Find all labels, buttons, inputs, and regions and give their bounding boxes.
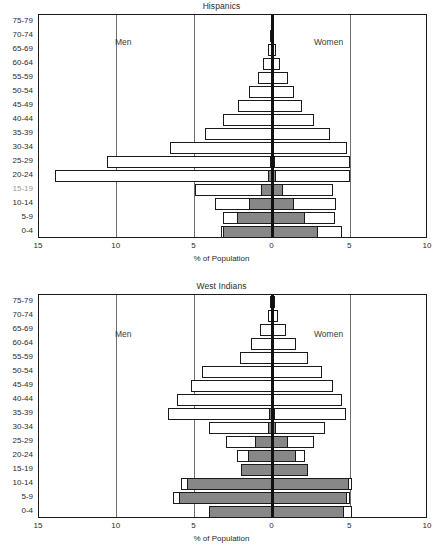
x-axis-tick-1: 10 [104, 240, 128, 252]
bar-right-60-64 [272, 338, 295, 351]
x-axis-tick-4: 5 [337, 520, 361, 532]
bar-right-30-34 [272, 142, 347, 155]
gridline-5 [350, 15, 351, 237]
y-axis-label-45-49: 45-49 [13, 380, 33, 390]
bar-left-50-54 [249, 86, 272, 99]
x-axis-title-top: % of Population [0, 252, 443, 265]
bar-left-45-49 [238, 100, 272, 113]
bar-shaded-left-0-4 [223, 226, 273, 239]
y-axis-label-5-9: 5-9 [21, 492, 33, 502]
y-axis-label-50-54: 50-54 [13, 366, 33, 376]
bar-shaded-right-20-24 [272, 450, 295, 463]
bar-shaded-left-10-14 [249, 198, 272, 211]
x-axis-tick-1: 10 [104, 520, 128, 532]
y-axis-label-40-44: 40-44 [13, 114, 33, 124]
y-axis-label-75-79: 75-79 [13, 296, 33, 306]
bar-left-25-29 [107, 156, 272, 169]
plot-area-top: Men Women [38, 14, 427, 238]
y-axis-label-55-59: 55-59 [13, 352, 33, 362]
bar-shaded-right-25-29 [272, 436, 288, 449]
x-axis-tick-0: 15 [26, 240, 50, 252]
bar-right-35-39 [272, 128, 330, 141]
gridline-5 [194, 15, 195, 237]
y-axis-label-15-19: 15-19 [13, 464, 33, 474]
x-axis-tick-5: 10 [415, 240, 439, 252]
chart-panel-hispanics: Hispanics 75-7970-7465-6960-6455-5950-54… [0, 0, 443, 279]
bar-left-30-34 [170, 142, 273, 155]
y-axis-label-45-49: 45-49 [13, 100, 33, 110]
bar-right-65-69 [272, 324, 286, 337]
men-label-top: Men [115, 37, 132, 47]
plot-area-bottom: Men Women [38, 294, 427, 518]
women-label-bottom: Women [314, 329, 343, 339]
bar-left-50-54 [202, 366, 272, 379]
x-axis-tick-0: 15 [26, 520, 50, 532]
y-axis-label-20-24: 20-24 [13, 170, 33, 180]
women-label-top: Women [314, 37, 343, 47]
bar-shaded-right-15-19 [272, 184, 282, 197]
bar-right-55-59 [272, 72, 288, 85]
population-pyramid-figure: Hispanics 75-7970-7465-6960-6455-5950-54… [0, 0, 443, 559]
bar-shaded-left-25-29 [255, 436, 272, 449]
bar-shaded-right-15-19 [272, 464, 308, 477]
y-axis-label-35-39: 35-39 [13, 408, 33, 418]
y-axis-label-75-79: 75-79 [13, 16, 33, 26]
y-axis-label-60-64: 60-64 [13, 58, 33, 68]
y-axis-label-55-59: 55-59 [13, 72, 33, 82]
bar-left-20-24 [55, 170, 273, 183]
chart-panel-west-indians: West Indians 75-7970-7465-6960-6455-5950… [0, 280, 443, 559]
bar-right-25-29 [272, 156, 350, 169]
bar-shaded-right-0-4 [272, 506, 344, 519]
x-axis-tick-4: 5 [337, 240, 361, 252]
bar-left-35-39 [168, 408, 272, 421]
bar-left-45-49 [191, 380, 272, 393]
bar-right-45-49 [272, 100, 302, 113]
bar-right-45-49 [272, 380, 333, 393]
y-axis-label-10-14: 10-14 [13, 478, 33, 488]
bar-shaded-left-20-24 [248, 450, 273, 463]
bar-right-55-59 [272, 352, 308, 365]
y-axis-label-25-29: 25-29 [13, 436, 33, 446]
bar-shaded-right-10-14 [272, 198, 294, 211]
bar-shaded-left-15-19 [241, 464, 272, 477]
y-axis-label-20-24: 20-24 [13, 450, 33, 460]
y-axis-label-10-14: 10-14 [13, 198, 33, 208]
y-axis-label-25-29: 25-29 [13, 156, 33, 166]
x-axis-tick-2: 5 [182, 520, 206, 532]
bar-left-60-64 [251, 338, 273, 351]
y-axis-label-65-69: 65-69 [13, 324, 33, 334]
gridline-10 [116, 15, 117, 237]
x-axis-tick-3: 0 [259, 520, 283, 532]
bar-left-35-39 [205, 128, 272, 141]
bar-right-35-39 [272, 408, 345, 421]
bar-right-40-44 [272, 114, 314, 127]
y-axis-label-70-74: 70-74 [13, 30, 33, 40]
bar-left-40-44 [177, 394, 272, 407]
zero-axis-line [271, 15, 274, 237]
bar-right-40-44 [272, 394, 342, 407]
men-label-bottom: Men [115, 329, 132, 339]
y-axis-label-30-34: 30-34 [13, 422, 33, 432]
bar-right-50-54 [272, 86, 294, 99]
y-axis-label-35-39: 35-39 [13, 128, 33, 138]
bar-shaded-right-0-4 [272, 226, 317, 239]
x-axis-tick-2: 5 [182, 240, 206, 252]
x-axis-title-bottom: % of Population [0, 532, 443, 545]
chart-title-top: Hispanics [0, 0, 443, 13]
bar-left-40-44 [223, 114, 273, 127]
y-axis-label-30-34: 30-34 [13, 142, 33, 152]
x-axis-tick-3: 0 [259, 240, 283, 252]
bar-shaded-left-5-9 [237, 212, 273, 225]
bar-shaded-left-10-14 [187, 478, 273, 491]
bar-shaded-right-10-14 [272, 478, 348, 491]
x-axis-tick-5: 10 [415, 520, 439, 532]
y-axis-label-70-74: 70-74 [13, 310, 33, 320]
bar-left-30-34 [209, 422, 273, 435]
y-axis-label-60-64: 60-64 [13, 338, 33, 348]
y-axis-label-0-4: 0-4 [21, 506, 33, 516]
y-axis-labels-bottom: 75-7970-7465-6960-6455-5950-5445-4940-44… [0, 294, 35, 518]
bar-right-20-24 [272, 170, 350, 183]
zero-axis-line [271, 295, 274, 517]
y-axis-label-40-44: 40-44 [13, 394, 33, 404]
bar-shaded-left-0-4 [209, 506, 273, 519]
